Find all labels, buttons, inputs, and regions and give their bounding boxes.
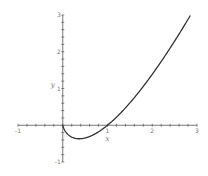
series-line: [63, 16, 191, 139]
x-tick-label: -1: [15, 127, 21, 134]
x-axis-label: x: [106, 135, 110, 143]
y-tick-label: -1: [55, 158, 61, 165]
x-tick-label: 3: [195, 127, 199, 134]
x-tick-label: 2: [150, 127, 154, 134]
y-axis-label: y: [50, 81, 56, 89]
y-tick-label: 3: [57, 11, 61, 18]
x-tick-label: 1: [106, 127, 110, 134]
axes: -1123-1123 x y: [15, 11, 199, 165]
y-tick-label: 2: [57, 48, 61, 55]
series-group: [63, 16, 191, 139]
y-tick-label: 1: [57, 85, 61, 92]
chart-canvas: -1123-1123 x y: [0, 0, 208, 176]
